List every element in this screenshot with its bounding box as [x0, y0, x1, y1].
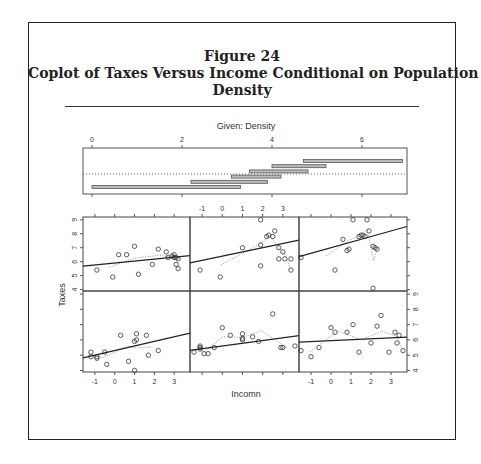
given-axis-tick-label: 6	[360, 136, 364, 143]
given-interval-bar	[191, 180, 268, 183]
x-tick-label: 1	[133, 378, 137, 385]
scatter-panels: -10123-10123456789456789-10123	[71, 205, 419, 385]
data-point	[387, 350, 391, 354]
data-point	[250, 335, 254, 339]
regression-line	[299, 226, 407, 256]
y-tick-label: 8	[71, 232, 78, 236]
y-tick-label: 7	[412, 323, 419, 327]
data-point	[277, 246, 281, 250]
scatter-panel: -10123	[190, 205, 299, 291]
data-point	[369, 341, 373, 345]
data-point	[176, 266, 180, 270]
data-point	[273, 229, 277, 233]
data-point	[289, 257, 293, 261]
scatter-panel: -10123	[80, 291, 190, 385]
y-tick-label: 7	[71, 246, 78, 250]
x-axis-label: Incomn	[231, 389, 261, 399]
data-point	[401, 348, 405, 352]
data-point	[220, 325, 224, 329]
y-tick-label: 8	[412, 307, 419, 311]
data-point	[116, 252, 120, 256]
loess-curve	[198, 331, 286, 352]
coplot: Given: Density 0246 -10123-1012345678945…	[0, 0, 481, 464]
data-point	[357, 350, 361, 354]
data-point	[333, 268, 337, 272]
data-point	[271, 234, 275, 238]
x-tick-label: 0	[329, 378, 333, 385]
data-point	[89, 350, 93, 354]
data-point	[258, 264, 262, 268]
y-tick-label: 6	[412, 338, 419, 342]
y-tick-label: 9	[71, 218, 78, 222]
given-interval-bar	[232, 175, 282, 178]
data-point	[240, 332, 244, 336]
data-point	[309, 355, 313, 359]
given-axis-tick-label: 2	[180, 136, 184, 143]
x-tick-label: 2	[152, 378, 156, 385]
data-point	[289, 268, 293, 272]
loess-curve	[326, 229, 377, 261]
data-point	[271, 312, 275, 316]
data-point	[365, 218, 369, 222]
given-interval-bar	[304, 160, 403, 163]
x-tick-label: -1	[308, 378, 314, 385]
data-point	[118, 333, 122, 337]
y-tick-label: 4	[412, 368, 419, 372]
data-point	[150, 262, 154, 266]
data-point	[395, 341, 399, 345]
y-tick-label: 9	[412, 292, 419, 296]
given-axis-tick-label: 4	[270, 136, 274, 143]
x-tick-label: 2	[261, 205, 265, 212]
loess-curve	[93, 346, 151, 358]
given-axis-tick-label: 0	[90, 136, 94, 143]
data-point	[156, 247, 160, 251]
data-point	[393, 330, 397, 334]
data-point	[333, 330, 337, 334]
data-point	[95, 268, 99, 272]
y-tick-label: 6	[71, 260, 78, 264]
data-point	[258, 218, 262, 222]
x-tick-label: 2	[369, 378, 373, 385]
data-point	[156, 348, 160, 352]
data-point	[126, 359, 130, 363]
data-point	[375, 324, 379, 328]
given-interval-bar	[272, 165, 326, 168]
data-point	[240, 246, 244, 250]
regression-line	[83, 333, 190, 358]
data-point	[134, 332, 138, 336]
data-point	[351, 322, 355, 326]
x-tick-label: 0	[220, 205, 224, 212]
data-point	[371, 286, 375, 290]
y-tick-label: 5	[71, 274, 78, 278]
scatter-panel	[190, 291, 299, 375]
data-point	[105, 362, 109, 366]
scatter-panel: -10123456789	[299, 291, 419, 385]
scatter-panel: 456789	[71, 214, 190, 292]
data-point	[317, 345, 321, 349]
data-point	[146, 353, 150, 357]
loess-curve	[221, 236, 291, 270]
data-point	[111, 275, 115, 279]
data-point	[144, 333, 148, 337]
data-point	[198, 268, 202, 272]
given-interval-bar	[92, 186, 241, 189]
x-tick-label: -1	[199, 205, 205, 212]
given-interval-bar	[250, 170, 309, 173]
y-tick-label: 5	[412, 353, 419, 357]
data-point	[329, 325, 333, 329]
x-tick-label: 3	[172, 378, 176, 385]
x-tick-label: 3	[281, 205, 285, 212]
data-point	[124, 252, 128, 256]
x-tick-label: -1	[92, 378, 98, 385]
data-point	[283, 257, 287, 261]
given-panel: 0246	[83, 136, 407, 197]
x-tick-label: 1	[349, 378, 353, 385]
data-point	[277, 257, 281, 261]
data-point	[132, 244, 136, 248]
regression-line	[299, 337, 407, 342]
given-panel-label: Given: Density	[217, 121, 276, 131]
x-tick-label: 1	[241, 205, 245, 212]
y-axis-label: Taxes	[57, 283, 67, 307]
y-tick-label: 4	[71, 288, 78, 292]
scatter-panel	[299, 214, 410, 291]
